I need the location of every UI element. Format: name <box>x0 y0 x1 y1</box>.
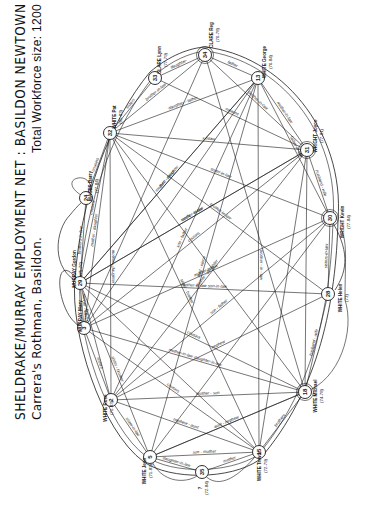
node-label-33: CLARE Lynn(77-79) <box>157 46 168 74</box>
edge-label: uncle - niece <box>180 205 204 222</box>
person-name: WHITE Michael <box>313 380 318 413</box>
edge-label: brother-in-law <box>247 90 270 112</box>
edge-label: brother - in - law <box>259 250 264 281</box>
node-id: 34 <box>202 51 208 58</box>
person-name: WHITE George <box>262 45 267 78</box>
edge-13-31 <box>258 78 307 150</box>
edge-15-32 <box>110 133 259 452</box>
node-label-31: WRIGHT Joyce(77-81) <box>313 119 324 152</box>
employment-years: (73) <box>344 294 349 302</box>
node-id: 28 <box>325 290 331 297</box>
employment-years: (75-76) <box>78 261 83 276</box>
employment-years: (77-81) <box>319 128 324 143</box>
employment-years: (72-79) <box>263 458 268 473</box>
node-id: 32 <box>107 129 113 136</box>
person-name: CLARE Lynn <box>157 46 162 74</box>
edge-label: son - mother <box>193 448 217 454</box>
person-name: MURRAY Mary <box>78 300 83 332</box>
person-name: WHITE Trevor <box>257 451 262 481</box>
edge-5-18 <box>150 392 305 457</box>
edge-label: mother - son <box>196 390 220 396</box>
node-id: 31 <box>304 146 310 153</box>
edge-15-29 <box>80 283 259 452</box>
edge-18-15 <box>259 392 305 452</box>
edge-label: son - father <box>209 298 229 316</box>
edge-29-32 <box>80 133 110 283</box>
edge-label: aunt - nephew <box>213 414 240 429</box>
employment-years: (77-84) <box>94 178 99 193</box>
edge-label: daughter - father <box>168 95 199 111</box>
person-name: WHITE Pat <box>112 105 117 129</box>
person-name: CLARE Reg <box>209 22 214 48</box>
employment-years: (77-79) <box>163 52 168 67</box>
node-label-30: WRIGHT Kevin(77-84) <box>340 206 351 239</box>
person-name: MACES Barry <box>88 171 93 201</box>
edge-31-18 <box>305 150 307 392</box>
node-label-34: CLARE Reg(76-78) <box>209 22 220 48</box>
node-id: 33 <box>152 74 158 81</box>
employment-years: (74-78) <box>319 388 324 403</box>
employment-years: (76-78) <box>215 27 220 42</box>
diagram-subtitle-right: Total Workforce size: 1200 <box>30 4 44 153</box>
node-id: 35 <box>199 468 205 475</box>
node-label-35: ?(72-84) <box>198 480 209 495</box>
edge-label: sisters-in-law <box>323 243 329 269</box>
edge-13-15 <box>258 78 259 452</box>
node-id: 18 <box>302 388 308 395</box>
node-label-32: WHITE Pat(81-83) <box>112 105 123 129</box>
employment-years: (71-83) <box>109 400 114 415</box>
edge-2-3 <box>84 328 111 400</box>
employment-years: (81-83) <box>118 109 123 124</box>
edge-label: sister-in-law <box>125 416 142 438</box>
edge-2-32 <box>110 133 111 400</box>
diagram-subtitle-left: Carrera's Rothman, Basildon. <box>30 237 44 420</box>
employment-years: (76-84) <box>268 54 273 69</box>
edge-label: aunt - niece <box>158 168 177 188</box>
person-name: WRIGHT Joyce <box>313 119 318 152</box>
person-name: WHITE Rose <box>103 394 108 422</box>
person-name: WRIGHT Kevin <box>340 206 345 239</box>
edge-28-18 <box>305 294 328 392</box>
person-name: WHITE Helen <box>338 284 343 313</box>
diagram-title: SHELDRAKE/MURRAY EMPLOYMENT NET : BASILD… <box>12 0 28 420</box>
edge-label: husband - wife <box>308 328 319 356</box>
node-label-18: WHITE Michael(74-78) <box>313 380 324 413</box>
edge-label: nephew <box>210 338 226 349</box>
edge-31-15 <box>259 150 307 452</box>
edge-label: cousins <box>225 106 241 117</box>
edge-label: mother - daughter <box>111 250 116 284</box>
title-block: SHELDRAKE/MURRAY EMPLOYMENT NET : BASILD… <box>8 0 68 420</box>
employment-years: (75-82) <box>84 308 89 323</box>
node-id: 30 <box>327 214 333 221</box>
person-name: WHITE Jean <box>142 458 147 485</box>
edge-label: mother-in-law <box>276 100 295 125</box>
node-id: 29 <box>77 279 83 286</box>
person-name: ? <box>198 486 203 489</box>
edge-31-30 <box>307 150 330 218</box>
employment-years: (77-84) <box>346 214 351 229</box>
employment-years: (72-84) <box>204 480 209 495</box>
node-label-24: MACES Barry(77-84) <box>88 171 99 201</box>
edge-13-30 <box>258 78 330 218</box>
node-id: 13 <box>255 74 261 81</box>
employment-years: (71-83) <box>148 463 153 478</box>
edge-label: sister - brother <box>110 355 125 382</box>
person-name: MURRAY Gordon <box>72 250 77 288</box>
